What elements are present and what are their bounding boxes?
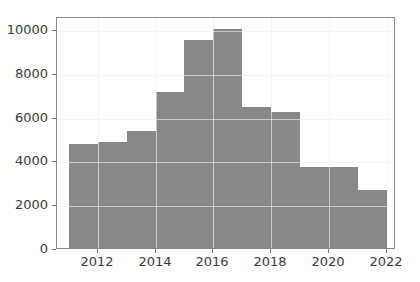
x-tick-label: 2014 <box>125 255 185 269</box>
histogram-bar <box>127 131 156 248</box>
x-tick-mark <box>386 249 387 253</box>
x-tick-label: 2016 <box>182 255 242 269</box>
histogram-bar <box>271 112 300 248</box>
x-tick-mark <box>97 249 98 253</box>
y-tick-mark <box>52 205 56 206</box>
y-tick-mark <box>52 30 56 31</box>
x-tick-mark <box>328 249 329 253</box>
y-tick-mark <box>52 74 56 75</box>
y-tick-label: 10000 <box>7 23 48 36</box>
y-tick-mark <box>52 161 56 162</box>
x-tick-label: 2020 <box>298 255 358 269</box>
y-tick-label: 8000 <box>15 67 48 80</box>
plot-area <box>56 17 395 249</box>
histogram-bar <box>242 107 271 248</box>
x-tick-label: 2012 <box>67 255 127 269</box>
y-tick-label: 2000 <box>15 198 48 211</box>
y-tick-mark <box>52 118 56 119</box>
y-tick-label: 4000 <box>15 154 48 167</box>
x-tick-label: 2018 <box>240 255 300 269</box>
histogram-bar <box>300 167 329 248</box>
histogram-bar <box>184 40 213 248</box>
chart-figure: 0200040006000800010000 20122014201620182… <box>0 0 420 282</box>
y-tick-label: 6000 <box>15 111 48 124</box>
y-tick-label: 0 <box>40 242 48 255</box>
histogram-bar <box>329 167 358 248</box>
x-tick-mark <box>270 249 271 253</box>
x-tick-label: 2022 <box>356 255 416 269</box>
histogram-bar <box>98 142 127 248</box>
x-tick-mark <box>212 249 213 253</box>
y-tick-mark <box>52 249 56 250</box>
histogram-bar <box>69 144 98 248</box>
x-tick-mark <box>155 249 156 253</box>
histogram-bar <box>156 92 185 248</box>
histogram-bar <box>213 29 242 248</box>
histogram-bar <box>358 190 387 248</box>
